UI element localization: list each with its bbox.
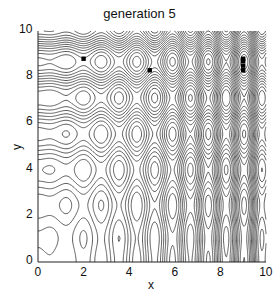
y-tick-label: 4 bbox=[26, 161, 33, 175]
y-tick-label: 6 bbox=[26, 114, 33, 128]
x-tick-label: 2 bbox=[80, 265, 87, 279]
y-tick-label: 2 bbox=[26, 207, 33, 221]
population-point bbox=[148, 68, 152, 72]
x-tick-label: 8 bbox=[217, 265, 224, 279]
population-point bbox=[241, 59, 245, 63]
contour-path bbox=[38, 31, 266, 262]
population-point bbox=[241, 68, 245, 72]
population-point bbox=[81, 57, 85, 61]
contour-plot bbox=[0, 0, 279, 300]
x-tick-label: 0 bbox=[35, 265, 42, 279]
population-point bbox=[241, 63, 245, 67]
x-tick-label: 10 bbox=[259, 265, 272, 279]
x-axis-label: x bbox=[148, 278, 154, 292]
y-tick-label: 0 bbox=[26, 253, 33, 267]
y-axis-label: y bbox=[10, 144, 24, 150]
y-tick-label: 10 bbox=[19, 22, 32, 36]
y-tick-label: 8 bbox=[26, 68, 33, 82]
x-tick-label: 6 bbox=[171, 265, 178, 279]
contour-lines bbox=[38, 31, 266, 262]
x-tick-label: 4 bbox=[126, 265, 133, 279]
